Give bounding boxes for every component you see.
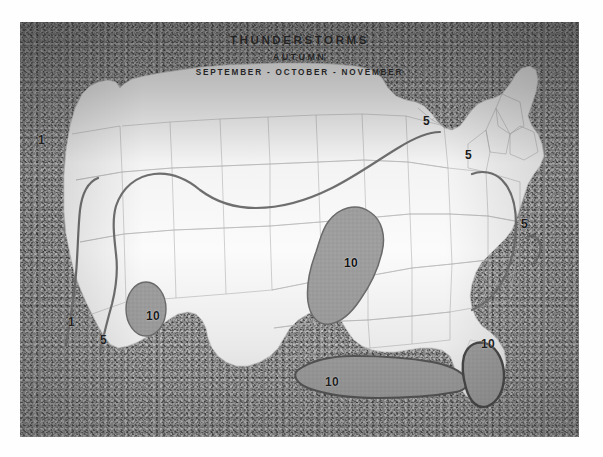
contour-label-5-upper-midwest: 5 xyxy=(423,115,430,127)
isoline-5-mid-atlantic xyxy=(526,236,541,264)
scan-page: THUNDERSTORMS AUTUMN SEPTEMBER - OCTOBER… xyxy=(0,0,603,457)
shaded-region-florida xyxy=(463,343,504,408)
contour-label-10-florida: 10 xyxy=(481,338,495,350)
contour-label-10-southwest: 10 xyxy=(146,310,160,322)
map-months-subtitle: SEPTEMBER - OCTOBER - NOVEMBER xyxy=(20,68,579,77)
contour-label-5-great-lakes: 5 xyxy=(465,149,472,161)
contour-label-1-southwest: 1 xyxy=(68,316,75,328)
contour-label-5-mid-atlantic: 5 xyxy=(521,218,528,230)
contour-label-10-gulf-coast: 10 xyxy=(325,376,339,388)
map-season-subtitle: AUTUMN xyxy=(20,52,579,62)
contour-label-5-southwest: 5 xyxy=(100,334,107,346)
contour-label-1-west-edge: 1 xyxy=(38,134,45,146)
thunderstorm-map-plate: THUNDERSTORMS AUTUMN SEPTEMBER - OCTOBER… xyxy=(20,22,579,437)
map-title: THUNDERSTORMS xyxy=(20,34,579,46)
contour-label-10-southern-plains: 10 xyxy=(344,257,358,269)
us-thunderstorm-contour-map xyxy=(20,22,579,437)
shaded-region-gulf-coast xyxy=(295,356,467,398)
